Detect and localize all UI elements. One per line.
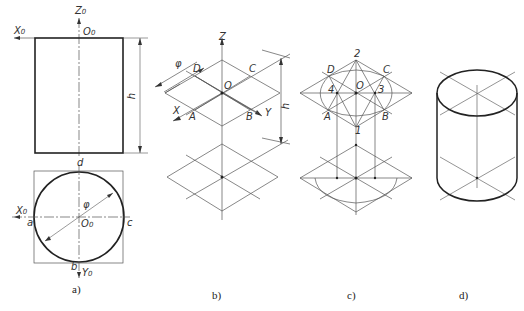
label-origin-c: O (356, 81, 364, 91)
label-y-axis: Y (265, 108, 271, 118)
label-z0-axis: Z0 (75, 6, 86, 16)
label-point-a: a (27, 218, 33, 228)
label-origin-top: O0 (81, 219, 93, 229)
label-point-B-b: B (246, 112, 253, 122)
label-point-A-b: A (189, 112, 196, 122)
isometric-cylinder-figure: Z0 X0 O0 h d a c b φ X0 O0 Y0 a) Z φ D C… (0, 0, 524, 311)
label-height-a: h (127, 93, 137, 99)
label-origin-front: O0 (83, 27, 95, 37)
caption-a: a) (72, 284, 81, 295)
caption-d: d) (459, 290, 468, 301)
caption-b: b) (212, 290, 221, 301)
label-diameter-b: φ (175, 59, 182, 69)
panel-d-finished-cylinder (437, 70, 517, 201)
label-center-2: 2 (354, 49, 360, 59)
label-height-b: h (281, 103, 291, 109)
label-point-B-c: B (382, 112, 389, 122)
label-point-C-c: C (383, 65, 390, 75)
label-x0-axis-front: X0 (14, 26, 25, 36)
label-point-d: d (77, 158, 83, 168)
label-origin-b: O (224, 81, 232, 91)
label-center-1: 1 (355, 126, 361, 136)
label-center-4: 4 (328, 85, 334, 95)
drawing-canvas (0, 0, 524, 311)
label-point-A-c: A (324, 112, 331, 122)
label-x0-axis-top: X0 (16, 206, 27, 216)
label-x-axis: X (173, 106, 180, 116)
label-point-D-c: D (327, 65, 335, 75)
label-center-3: 3 (378, 85, 384, 95)
label-diameter-a: φ (83, 200, 90, 210)
panel-a-front-view (14, 18, 148, 158)
label-y0-axis: Y0 (82, 268, 93, 278)
label-point-D-b: D (193, 64, 201, 74)
caption-c: c) (347, 290, 356, 301)
label-z-axis: Z (219, 32, 226, 42)
label-point-c: c (127, 218, 133, 228)
label-point-b: b (71, 262, 77, 272)
label-point-C-b: C (249, 64, 256, 74)
